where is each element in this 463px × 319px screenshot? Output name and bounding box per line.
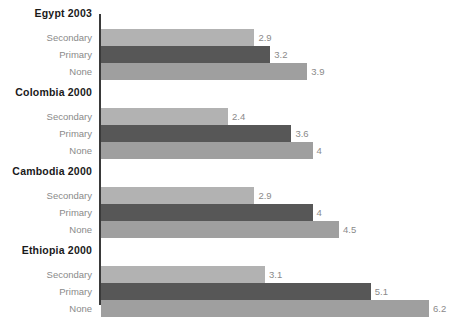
bar [101, 204, 313, 221]
bar-category-label: Secondary [0, 266, 92, 283]
bar-value-label: 5.1 [375, 283, 388, 300]
bar-category-label: Primary [0, 204, 92, 221]
group-title: Egypt 2003 [0, 7, 92, 19]
bar-row: Secondary2.4 [0, 108, 463, 125]
bar [101, 266, 265, 283]
bar-value-label: 3.6 [295, 125, 308, 142]
bar-row: None6.2 [0, 300, 463, 317]
bar [101, 187, 254, 204]
group-title: Colombia 2000 [0, 86, 92, 98]
bar-category-label: Primary [0, 46, 92, 63]
bar-value-label: 2.9 [258, 187, 271, 204]
bar-value-label: 3.1 [269, 266, 282, 283]
bar-category-label: None [0, 221, 92, 238]
bar-row: Secondary2.9 [0, 187, 463, 204]
bar-row: None3.9 [0, 63, 463, 80]
bar-value-label: 2.9 [258, 29, 271, 46]
bar-category-label: Secondary [0, 187, 92, 204]
bar-row: None4 [0, 142, 463, 159]
horizontal-bar-chart: Egypt 2003Secondary2.9Primary3.2None3.9C… [0, 0, 463, 319]
bar-row: Primary5.1 [0, 283, 463, 300]
bar [101, 125, 291, 142]
bar-value-label: 4 [317, 204, 322, 221]
group-title: Ethiopia 2000 [0, 244, 92, 256]
bar-row: Secondary3.1 [0, 266, 463, 283]
bar [101, 46, 270, 63]
bar [101, 142, 313, 159]
bar-row: None4.5 [0, 221, 463, 238]
bar-value-label: 2.4 [232, 108, 245, 125]
bar [101, 221, 339, 238]
bar-value-label: 4.5 [343, 221, 356, 238]
bar-value-label: 6.2 [433, 300, 446, 317]
bar [101, 63, 307, 80]
bar-row: Primary3.6 [0, 125, 463, 142]
bar [101, 283, 371, 300]
bar-category-label: Primary [0, 125, 92, 142]
bar-value-label: 3.2 [274, 46, 287, 63]
bar-value-label: 4 [317, 142, 322, 159]
bar-row: Secondary2.9 [0, 29, 463, 46]
bar [101, 108, 228, 125]
bar-category-label: None [0, 63, 92, 80]
group-title: Cambodia 2000 [0, 165, 92, 177]
bar-value-label: 3.9 [311, 63, 324, 80]
bar [101, 29, 254, 46]
bar-row: Primary4 [0, 204, 463, 221]
bar-category-label: Secondary [0, 108, 92, 125]
bar-category-label: Secondary [0, 29, 92, 46]
bar-category-label: None [0, 300, 92, 317]
bar-category-label: None [0, 142, 92, 159]
bar-row: Primary3.2 [0, 46, 463, 63]
bar-category-label: Primary [0, 283, 92, 300]
bar [101, 300, 429, 317]
